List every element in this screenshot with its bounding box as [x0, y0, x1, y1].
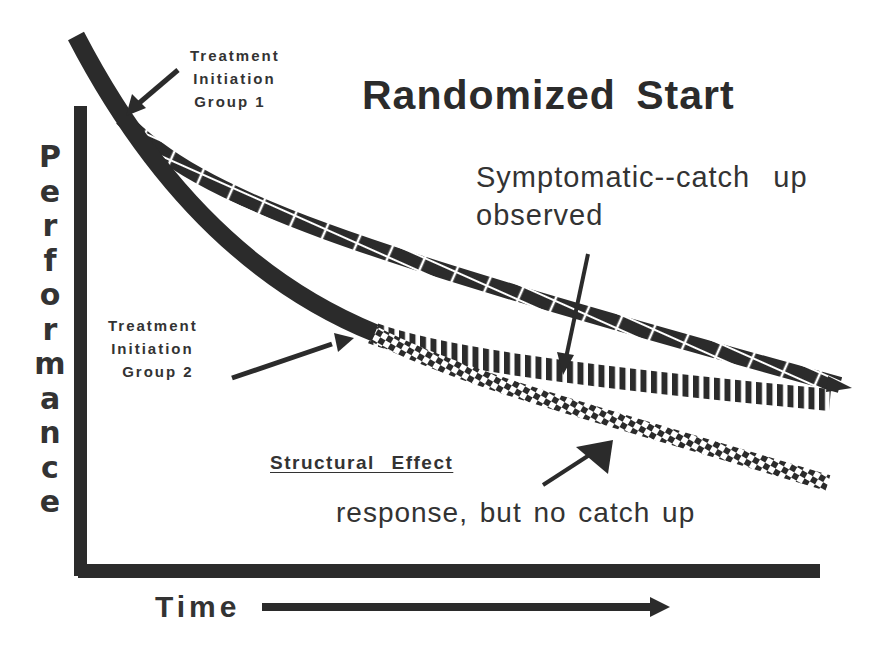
y-letter: n [30, 416, 70, 451]
note-structural-response: response, but no catch up [336, 497, 695, 529]
y-letter: a [30, 382, 70, 417]
time-arrow-head [650, 597, 670, 617]
label-line: Treatment [190, 44, 280, 67]
y-letter: e [30, 485, 70, 520]
y-letter: c [30, 451, 70, 486]
label-line: Treatment [108, 314, 198, 337]
x-axis [78, 564, 820, 578]
y-axis-label: P e r f o r m a n c e [30, 140, 70, 520]
label-line: Group 2 [108, 360, 194, 383]
note-line: Symptomatic--catch up [476, 158, 808, 196]
y-letter: o [30, 278, 70, 313]
arrow-group2-shaft [232, 344, 332, 378]
x-axis-label: Time [155, 590, 240, 624]
diagram-title: Randomized Start [362, 72, 735, 119]
label-line: Group 1 [190, 90, 266, 113]
y-letter: f [30, 244, 70, 279]
y-letter: m [30, 347, 70, 382]
label-treatment-initiation-group1: Treatment Initiation Group 1 [190, 44, 280, 113]
y-letter: r [30, 209, 70, 244]
note-symptomatic: Symptomatic--catch up observed [476, 158, 808, 234]
arrow-group2-head [334, 333, 354, 352]
label-line: Initiation [190, 67, 276, 90]
arrow-structural-shaft [543, 452, 594, 485]
time-arrow-shaft [262, 603, 652, 611]
y-letter: e [30, 175, 70, 210]
arrow-group1-shaft [138, 70, 178, 104]
arrow-structural-head [576, 440, 613, 474]
y-letter: r [30, 313, 70, 348]
label-treatment-initiation-group2: Treatment Initiation Group 2 [108, 314, 198, 383]
note-structural-heading: Structural Effect [270, 452, 453, 474]
y-letter: P [30, 140, 70, 175]
y-axis [74, 106, 87, 576]
note-line: observed [476, 196, 808, 234]
label-line: Initiation [108, 337, 194, 360]
